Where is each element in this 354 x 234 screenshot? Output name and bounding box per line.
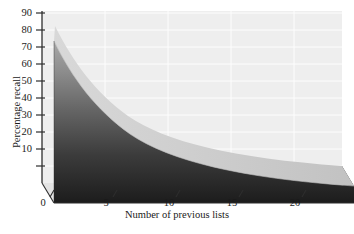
y-tick-label-60: 60 [0, 59, 32, 70]
y-axis-title: Percentage recall [12, 76, 23, 148]
x-tick-label-0: 0 [32, 198, 54, 209]
y-tick-label-70: 70 [0, 42, 32, 53]
x-tick-label-20: 20 [284, 198, 306, 209]
x-tick-label-15: 15 [221, 198, 243, 209]
x-tick-label-5: 5 [95, 198, 117, 209]
y-tick-label-80: 80 [0, 25, 32, 36]
chart-figure: 90 80 70 60 50 40 30 20 10 0 5 10 15 20 … [0, 0, 354, 234]
x-axis-title: Number of previous lists [0, 210, 354, 221]
y-tick-label-90: 90 [0, 8, 32, 19]
x-tick-label-10: 10 [158, 198, 180, 209]
